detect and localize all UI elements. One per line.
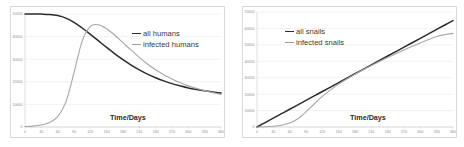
svg-text:0: 0 <box>253 125 255 129</box>
humans-legend: all humans infected humans <box>132 28 199 50</box>
line-swatch-icon <box>285 31 294 32</box>
svg-text:120: 120 <box>87 130 93 134</box>
line-swatch-icon <box>132 33 141 34</box>
svg-text:330: 330 <box>202 130 208 134</box>
legend-item-all-humans: all humans <box>132 28 199 39</box>
svg-text:40000: 40000 <box>245 60 255 64</box>
svg-text:30: 30 <box>271 130 275 134</box>
svg-text:30000: 30000 <box>13 58 23 62</box>
snails-chart-svg: 0100002000030000400005000060000700000306… <box>232 0 464 147</box>
legend-label: infected humans <box>143 41 199 49</box>
svg-text:60: 60 <box>288 130 292 134</box>
svg-text:330: 330 <box>434 130 440 134</box>
svg-text:270: 270 <box>169 130 175 134</box>
svg-text:50000: 50000 <box>13 12 23 16</box>
legend-item-infected-humans: infected humans <box>132 39 199 50</box>
line-swatch-icon <box>132 44 141 45</box>
line-swatch-icon <box>285 42 294 43</box>
svg-text:40000: 40000 <box>13 35 23 39</box>
humans-chart-svg: 0100002000030000400005000003060901201501… <box>0 0 232 147</box>
svg-text:210: 210 <box>368 130 374 134</box>
chart-pair-figure: 0100002000030000400005000003060901201501… <box>0 0 464 147</box>
legend-label: infected snails <box>296 39 344 47</box>
svg-text:0: 0 <box>21 125 23 129</box>
svg-text:90: 90 <box>304 130 308 134</box>
legend-label: all snails <box>296 28 325 36</box>
snails-legend: all snails infected snails <box>285 26 344 48</box>
svg-text:20000: 20000 <box>245 93 255 97</box>
svg-text:180: 180 <box>352 130 358 134</box>
svg-text:120: 120 <box>319 130 325 134</box>
svg-text:180: 180 <box>120 130 126 134</box>
legend-item-all-snails: all snails <box>285 26 344 37</box>
legend-label: all humans <box>143 30 180 38</box>
svg-text:70000: 70000 <box>245 10 255 14</box>
humans-chart-panel: 0100002000030000400005000003060901201501… <box>0 0 232 147</box>
svg-text:240: 240 <box>153 130 159 134</box>
svg-text:30: 30 <box>39 130 43 134</box>
svg-text:360: 360 <box>218 130 224 134</box>
svg-text:270: 270 <box>401 130 407 134</box>
svg-text:240: 240 <box>385 130 391 134</box>
svg-text:10000: 10000 <box>13 103 23 107</box>
svg-text:30000: 30000 <box>245 76 255 80</box>
svg-text:360: 360 <box>450 130 456 134</box>
snails-chart-panel: 0100002000030000400005000060000700000306… <box>232 0 464 147</box>
svg-text:50000: 50000 <box>245 43 255 47</box>
svg-text:60: 60 <box>56 130 60 134</box>
svg-text:300: 300 <box>185 130 191 134</box>
svg-text:0: 0 <box>256 130 258 134</box>
svg-text:150: 150 <box>104 130 110 134</box>
svg-text:10000: 10000 <box>245 109 255 113</box>
svg-text:210: 210 <box>136 130 142 134</box>
svg-text:300: 300 <box>417 130 423 134</box>
x-axis-title: Time/Days <box>350 113 386 122</box>
x-axis-title: Time/Days <box>110 113 146 122</box>
svg-text:20000: 20000 <box>13 80 23 84</box>
svg-text:90: 90 <box>72 130 76 134</box>
svg-text:0: 0 <box>24 130 26 134</box>
legend-item-infected-snails: infected snails <box>285 37 344 48</box>
svg-text:150: 150 <box>336 130 342 134</box>
svg-text:60000: 60000 <box>245 27 255 31</box>
